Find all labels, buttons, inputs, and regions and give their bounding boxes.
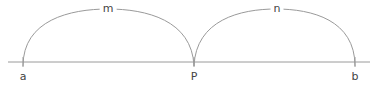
segment-arc-diagram: m n a P b — [0, 0, 376, 88]
arc-label-n: n — [271, 3, 284, 15]
point-label-p: P — [191, 71, 198, 83]
arc-label-m: m — [100, 3, 117, 15]
arc-m — [23, 9, 194, 66]
point-label-b: b — [352, 71, 359, 83]
point-label-a: a — [20, 71, 27, 83]
arc-n — [194, 9, 355, 66]
diagram-canvas — [0, 0, 376, 88]
